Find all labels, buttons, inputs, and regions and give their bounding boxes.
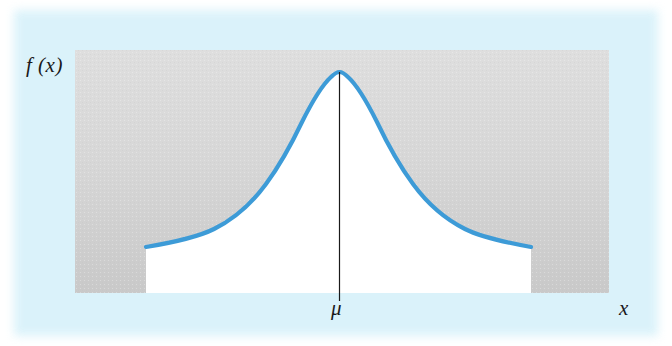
x-axis-label: x	[619, 296, 628, 321]
y-axis-label: f (x)	[26, 53, 63, 78]
figure-container: f (x) μ x	[0, 0, 672, 346]
normal-distribution-plot	[0, 0, 672, 346]
mean-label: μ	[331, 296, 342, 321]
